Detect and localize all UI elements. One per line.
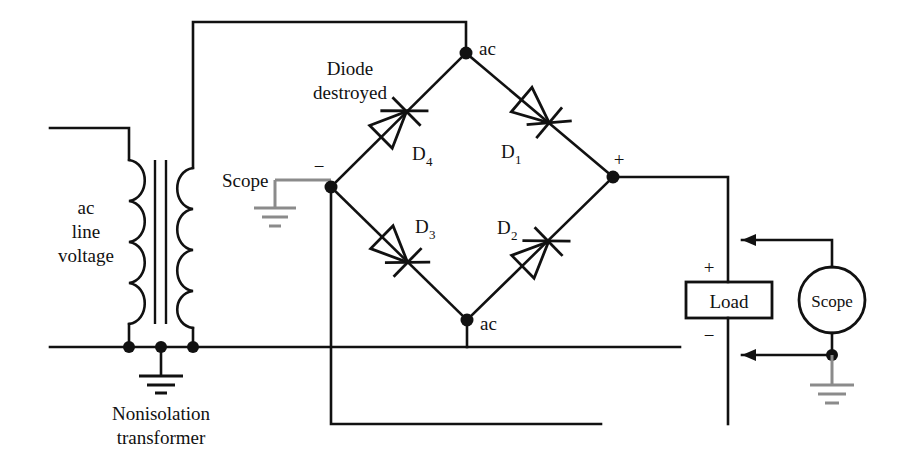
nonisolation-label-1: Nonisolation — [112, 403, 211, 424]
scope-right-ground-symbol — [810, 355, 854, 403]
bridge-plus-label: + — [614, 149, 625, 170]
scope-right-label: Scope — [811, 292, 853, 311]
svg-text:D: D — [497, 217, 511, 238]
ac-line-voltage-label-2: line — [72, 221, 101, 242]
node-dc-minus — [325, 181, 338, 194]
circuit-diagram: Load + − Scope ac line voltage Nonisolat… — [0, 0, 904, 467]
bridge-arm-d1 — [466, 53, 613, 177]
svg-text:2: 2 — [511, 228, 518, 243]
svg-text:4: 4 — [426, 154, 433, 169]
ac-line-voltage-label-3: voltage — [58, 245, 114, 266]
diode-d4-label: D 4 — [412, 143, 433, 169]
bridge-arm-d3 — [331, 187, 467, 320]
bridge-minus-label: − — [314, 156, 325, 177]
diode-d1-label: D 1 — [501, 141, 522, 167]
junction-dots-bottom-bus — [123, 341, 199, 353]
diode-d1-cross — [527, 100, 572, 145]
node-ac-top-label: ac — [479, 38, 496, 59]
node-ac-bottom — [461, 314, 474, 327]
diode-d3-label: D 3 — [415, 216, 436, 242]
load-minus-label: − — [704, 325, 715, 346]
svg-text:1: 1 — [515, 152, 522, 167]
ac-line-voltage-label-1: ac — [78, 197, 95, 218]
load-label: Load — [709, 291, 749, 312]
transformer-secondary-winding — [177, 168, 193, 328]
node-ac-bottom-label: ac — [480, 313, 497, 334]
diode-destroyed-label-2: destroyed — [313, 82, 387, 103]
wire-bridge-minus-to-bottom-return — [331, 187, 601, 424]
svg-text:D: D — [415, 216, 429, 237]
bridge-arm-d2 — [467, 177, 613, 320]
earth-ground-symbol — [139, 347, 183, 393]
diode-d4-destroyed-cross — [380, 87, 428, 135]
scope-left-label: Scope — [222, 170, 268, 191]
svg-text:D: D — [412, 143, 426, 164]
transformer-core — [155, 160, 166, 324]
load-plus-label: + — [704, 257, 715, 278]
wire-ac-line-input-top — [50, 128, 129, 160]
nonisolation-label-2: transformer — [117, 427, 206, 448]
scope-right-lead-top — [742, 234, 832, 267]
svg-text:D: D — [501, 141, 515, 162]
svg-text:3: 3 — [429, 227, 436, 242]
diode-destroyed-label-1: Diode — [327, 58, 373, 79]
node-ac-top — [460, 47, 473, 60]
diode-d2-label: D 2 — [497, 217, 518, 243]
scope-right-lead-bottom — [742, 333, 832, 361]
transformer-primary-winding — [129, 160, 145, 324]
